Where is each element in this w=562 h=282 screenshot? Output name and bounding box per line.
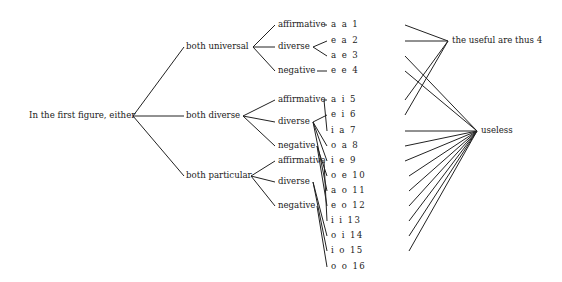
mood-14: o i 14	[331, 231, 364, 240]
mood-9: i e 9	[331, 156, 357, 165]
node-particular-affirmative: affirmative	[278, 156, 326, 165]
mood-2: e a 2	[331, 36, 359, 45]
node-diverse-negative: negative	[278, 141, 315, 150]
node-universal-affirmative: affirmative	[278, 20, 326, 29]
syllogism-tree-diagram: In the first figure, either both univers…	[0, 0, 562, 282]
root-label: In the first figure, either	[29, 111, 135, 120]
node-both-universal: both universal	[186, 42, 249, 51]
mood-1: a a 1	[331, 20, 359, 29]
mood-5: a i 5	[331, 95, 357, 104]
mood-11: a o 11	[331, 186, 366, 195]
node-both-particular: both particular	[186, 171, 252, 180]
mood-16: o o 16	[331, 262, 366, 271]
node-particular-diverse: diverse	[278, 177, 310, 186]
mood-8: o a 8	[331, 141, 359, 150]
mood-7: i a 7	[331, 126, 357, 135]
node-diverse-diverse: diverse	[278, 117, 310, 126]
mood-4: e e 4	[331, 66, 359, 75]
node-universal-diverse: diverse	[278, 42, 310, 51]
mood-3: a e 3	[331, 51, 359, 60]
node-both-diverse: both diverse	[186, 111, 240, 120]
mood-12: e o 12	[331, 201, 366, 210]
mood-15: i o 15	[331, 246, 364, 255]
node-particular-negative: negative	[278, 201, 315, 210]
node-universal-negative: negative	[278, 66, 315, 75]
mood-13: i i 13	[331, 216, 361, 225]
mood-6: e i 6	[331, 110, 357, 119]
outcome-useful: the useful are thus 4	[452, 36, 542, 45]
outcome-useless: useless	[481, 126, 513, 135]
node-diverse-affirmative: affirmative	[278, 95, 326, 104]
mood-10: o e 10	[331, 171, 366, 180]
